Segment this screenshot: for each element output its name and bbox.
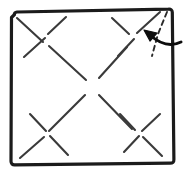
canvas-background <box>0 0 184 174</box>
diagram-canvas <box>0 0 184 174</box>
origami-diagram <box>0 0 184 174</box>
